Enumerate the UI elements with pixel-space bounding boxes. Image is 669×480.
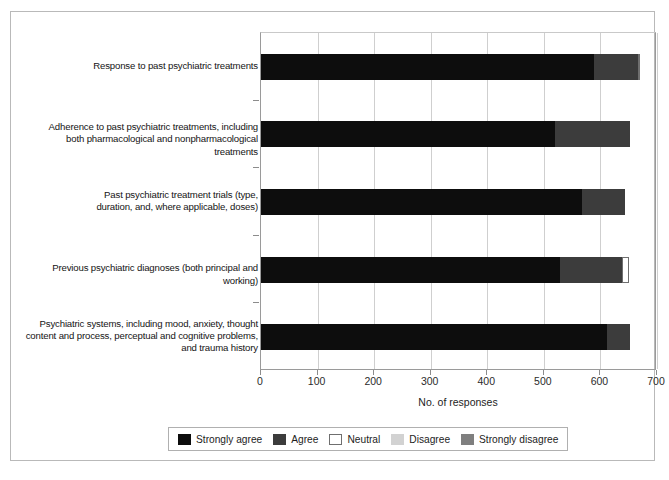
category-label-line: content and process, perceptual and cogn… (20, 330, 258, 342)
legend-item[interactable]: Strongly agree (178, 434, 262, 445)
bar-segment-strongly-agree (261, 257, 560, 283)
category-label: Adherence to past psychiatric treatments… (20, 121, 258, 158)
category-label-line: Past psychiatric treatment trials (type, (20, 189, 258, 201)
category-label-line: and trauma history (20, 342, 258, 354)
legend-label: Agree (291, 434, 318, 445)
legend-label: Strongly agree (196, 434, 262, 445)
bar-row (261, 324, 630, 350)
category-label-line: Previous psychiatric diagnoses (both pri… (20, 262, 258, 287)
bar-segment-strongly-agree (261, 189, 582, 215)
category-tick (253, 235, 259, 236)
category-tick (253, 167, 259, 168)
bar-segment-strongly-agree (261, 324, 607, 350)
x-tick-label: 100 (308, 375, 326, 387)
bar-row (261, 121, 630, 147)
bar-segment-strongly-agree (261, 54, 594, 80)
x-axis-title: No. of responses (260, 396, 656, 408)
bar-row (261, 54, 640, 80)
category-label-line: Psychiatric systems, including mood, anx… (20, 318, 258, 330)
x-tick-label: 200 (364, 375, 382, 387)
legend-swatch-icon (461, 434, 474, 445)
bar-segment-agree (582, 189, 626, 215)
chart-figure: Response to past psychiatric treatmentsA… (0, 0, 669, 480)
plot-area (260, 32, 656, 370)
bar-row (261, 189, 625, 215)
x-tick-label: 600 (591, 375, 609, 387)
bar-segment-neutral (622, 257, 629, 283)
chart-legend: Strongly agreeAgreeNeutralDisagreeStrong… (168, 427, 568, 451)
category-axis-labels: Response to past psychiatric treatmentsA… (14, 32, 258, 370)
category-tick (253, 100, 259, 101)
category-label: Response to past psychiatric treatments (20, 60, 258, 72)
x-tick-label: 300 (421, 375, 439, 387)
legend-label: Strongly disagree (479, 434, 558, 445)
legend-swatch-icon (391, 434, 404, 445)
x-tick-label: 500 (534, 375, 552, 387)
gridline (657, 33, 658, 369)
bar-segment-agree (555, 121, 630, 147)
bar-row (261, 257, 629, 283)
x-tick-label: 700 (647, 375, 665, 387)
category-label-line: duration, and, where applicable, doses) (20, 201, 258, 213)
bar-segment-agree (560, 257, 622, 283)
legend-swatch-icon (329, 434, 342, 445)
legend-item[interactable]: Agree (273, 434, 318, 445)
legend-item[interactable]: Strongly disagree (461, 434, 558, 445)
x-tick-label: 400 (478, 375, 496, 387)
bar-segment-neutral (638, 54, 640, 80)
legend-label: Neutral (347, 434, 380, 445)
category-label: Past psychiatric treatment trials (type,… (20, 189, 258, 214)
legend-item[interactable]: Disagree (391, 434, 450, 445)
bar-segment-agree (607, 324, 630, 350)
category-label: Psychiatric systems, including mood, anx… (20, 318, 258, 355)
legend-item[interactable]: Neutral (329, 434, 380, 445)
category-label: Previous psychiatric diagnoses (both pri… (20, 262, 258, 287)
x-tick-label: 0 (257, 375, 263, 387)
category-label-line: Adherence to past psychiatric treatments… (20, 121, 258, 133)
category-label-line: Response to past psychiatric treatments (20, 60, 258, 72)
bar-segment-strongly-agree (261, 121, 555, 147)
category-label-line: both pharmacological and nonpharmacologi… (20, 133, 258, 158)
legend-label: Disagree (409, 434, 450, 445)
legend-swatch-icon (178, 434, 191, 445)
legend-swatch-icon (273, 434, 286, 445)
bar-segment-agree (594, 54, 638, 80)
category-tick (253, 302, 259, 303)
